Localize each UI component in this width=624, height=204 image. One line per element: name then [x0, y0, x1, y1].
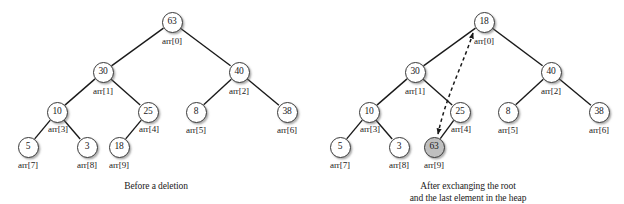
heap-node-node-3: 3	[389, 137, 410, 158]
array-index-label-node-5: arr[7]	[330, 161, 350, 170]
tree-edge	[112, 28, 164, 66]
array-index-label-root: arr[0]	[474, 37, 494, 46]
array-index-label-node-25: arr[4]	[451, 125, 471, 134]
array-index-label-node-8: arr[5]	[186, 126, 206, 135]
heap-node-node-18: 18	[109, 137, 130, 158]
caption-line: After exchanging the root	[312, 180, 624, 192]
array-index-label-node-8: arr[5]	[498, 126, 518, 135]
array-index-label-node-38: arr[6]	[277, 126, 297, 135]
heap-node-node-5: 5	[18, 137, 39, 158]
heap-deletion-figure: 63arr[0]30arr[1]40arr[2]10arr[3]25arr[4]…	[0, 0, 624, 204]
panel-after-exchange: 18arr[0]30arr[1]40arr[2]10arr[3]25arr[4]…	[312, 0, 624, 204]
heap-node-node-25: 25	[450, 102, 471, 123]
heap-node-node-10: 10	[47, 102, 68, 123]
array-index-label-root: arr[0]	[162, 37, 182, 46]
array-index-label-node-5: arr[7]	[18, 161, 38, 170]
array-index-label-node-10: arr[3]	[48, 125, 68, 134]
tree-edge	[377, 79, 407, 105]
array-index-label-right-child: arr[2]	[229, 87, 249, 96]
tree-edge	[247, 79, 279, 106]
array-index-label-node-38: arr[6]	[589, 126, 609, 135]
array-index-label-node-3: arr[8]	[77, 161, 97, 170]
array-index-label-left-child: arr[1]	[93, 87, 113, 96]
heap-node-node-63: 63	[424, 137, 445, 158]
heap-node-node-8: 8	[186, 102, 207, 123]
tree-edge	[492, 28, 542, 65]
caption-after: After exchanging the rootand the last el…	[312, 180, 624, 204]
array-index-label-node-63: arr[9]	[424, 161, 444, 170]
heap-node-root: 18	[474, 12, 495, 33]
caption-line: and the last element in the heap	[312, 192, 624, 204]
tree-edge	[559, 79, 591, 106]
heap-node-root: 63	[162, 12, 183, 33]
tree-edge	[204, 79, 232, 105]
heap-node-right-child: 40	[229, 62, 250, 83]
tree-edge	[180, 28, 230, 65]
array-index-label-node-10: arr[3]	[360, 125, 380, 134]
heap-node-node-25: 25	[138, 102, 159, 123]
heap-node-node-5: 5	[330, 137, 351, 158]
heap-node-node-10: 10	[359, 102, 380, 123]
tree-edge	[65, 79, 95, 105]
heap-node-node-8: 8	[498, 102, 519, 123]
array-index-label-node-3: arr[8]	[389, 161, 409, 170]
heap-node-right-child: 40	[541, 62, 562, 83]
array-index-label-node-25: arr[4]	[139, 125, 159, 134]
panel-before-deletion: 63arr[0]30arr[1]40arr[2]10arr[3]25arr[4]…	[0, 0, 312, 204]
heap-node-left-child: 30	[405, 62, 426, 83]
edges-layer-before	[0, 0, 312, 204]
tree-edge	[111, 79, 140, 105]
array-index-label-right-child: arr[2]	[541, 87, 561, 96]
array-index-label-node-18: arr[9]	[109, 161, 129, 170]
caption-line: Before a deletion	[0, 180, 312, 192]
heap-node-node-38: 38	[589, 102, 610, 123]
heap-node-left-child: 30	[93, 62, 114, 83]
edges-layer-after	[312, 0, 624, 204]
tree-edge	[516, 79, 544, 105]
caption-before: Before a deletion	[0, 180, 312, 192]
array-index-label-left-child: arr[1]	[405, 87, 425, 96]
heap-node-node-38: 38	[277, 102, 298, 123]
heap-node-node-3: 3	[77, 137, 98, 158]
